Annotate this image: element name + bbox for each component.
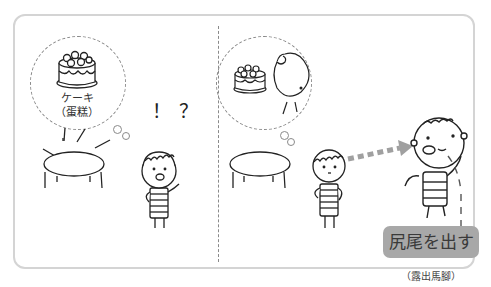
idiom-label: 尻尾を出す: [383, 226, 479, 258]
table-icon: [230, 152, 290, 188]
bald-character-icon: [405, 118, 467, 226]
idiom-translation: （露出馬腳）: [383, 268, 479, 283]
idiom-text-jp: 尻尾を出す: [389, 232, 474, 252]
character-eating-cake-icon: [234, 53, 309, 114]
child-icon: [313, 150, 345, 228]
arrow-icon: [348, 140, 413, 159]
illustration-frame: ケーキ （蛋糕） ！？: [13, 14, 475, 269]
